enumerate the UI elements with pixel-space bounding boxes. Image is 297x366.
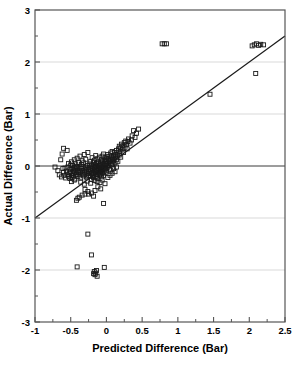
x-tick-label: 1.5 [207, 325, 221, 336]
scatter-plot-figure: -1-0.500.511.522.5-3-2-10123Predicted Di… [0, 0, 297, 366]
x-tick-label: 0.5 [136, 325, 150, 336]
plot-canvas: -1-0.500.511.522.5-3-2-10123Predicted Di… [0, 0, 297, 366]
y-tick-label: 2 [25, 57, 30, 68]
y-tick-label: 3 [25, 5, 30, 16]
x-tick-label: 2.5 [278, 325, 292, 336]
x-tick-label: -1 [31, 325, 40, 336]
y-axis-title: Actual Difference (Bar) [2, 106, 14, 226]
x-tick-label: 0 [104, 325, 109, 336]
y-tick-label: -1 [22, 213, 31, 224]
y-tick-label: -2 [22, 265, 30, 276]
x-axis-title: Predicted Difference (Bar) [92, 342, 228, 354]
y-tick-label: 0 [25, 161, 30, 172]
x-tick-label: 2 [247, 325, 252, 336]
y-tick-label: 1 [25, 109, 31, 120]
y-tick-label: -3 [22, 317, 30, 328]
x-tick-label: -0.5 [63, 325, 80, 336]
x-tick-label: 1 [175, 325, 181, 336]
